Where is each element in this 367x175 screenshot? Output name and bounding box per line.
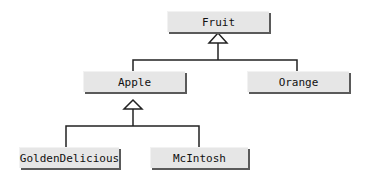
class-box-fruit: Fruit — [167, 11, 269, 32]
class-label-apple: Apple — [118, 76, 151, 89]
class-box-apple: Apple — [83, 71, 185, 92]
class-label-fruit: Fruit — [202, 16, 235, 29]
class-box-orange: Orange — [247, 71, 349, 92]
connector-apple-branch — [66, 126, 199, 147]
class-label-orange: Orange — [279, 76, 319, 89]
inheritance-arrow-apple — [124, 100, 142, 109]
class-label-goldendelicious: GoldenDelicious — [20, 152, 119, 165]
connector-fruit-branch — [133, 60, 297, 71]
class-diagram: Fruit Apple Orange GoldenDelicious McInt… — [0, 0, 367, 175]
inheritance-arrow-fruit — [209, 33, 227, 43]
class-box-goldendelicious: GoldenDelicious — [19, 147, 119, 168]
class-label-mcintosh: McIntosh — [173, 152, 226, 165]
class-box-mcintosh: McIntosh — [150, 147, 248, 168]
